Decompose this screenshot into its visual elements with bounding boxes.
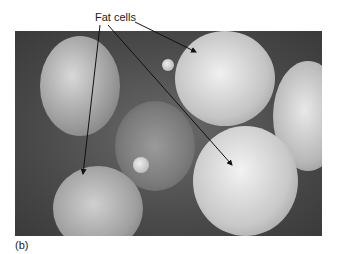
arrow-left: [83, 25, 100, 174]
figure-label: (b): [15, 239, 28, 251]
arrow-middle: [108, 25, 232, 165]
arrow-right: [135, 22, 196, 52]
annotation-label: Fat cells: [95, 11, 136, 23]
arrows-overlay: [0, 0, 338, 254]
